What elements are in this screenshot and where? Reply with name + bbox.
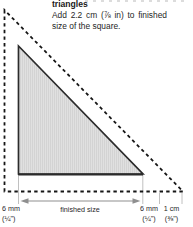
label-finished-size: finished size [38,206,122,215]
finished-size-arrow [21,198,141,203]
arrow-head-left-icon [21,198,29,203]
label-right-seam-metric: 6 mm [136,205,162,214]
label-corner-imperial: (⅜") [160,215,183,224]
page: triangles Add 2.2 cm (⅞ in) to finished … [0,0,193,227]
label-left-seam-imperial: (¼") [2,215,15,224]
finished-triangle [19,46,144,174]
label-right-seam-imperial: (¼") [136,215,162,224]
label-left-seam-metric: 6 mm [2,205,20,214]
label-corner-metric: 1 cm [160,205,183,214]
triangle-cutting-diagram [0,0,193,227]
arrow-head-right-icon [133,198,141,203]
